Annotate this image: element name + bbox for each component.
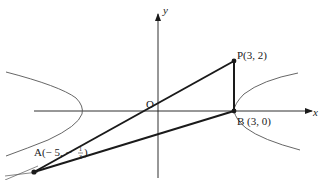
origin-label: O [146, 98, 154, 110]
point-B-label: B (3, 0) [237, 115, 271, 128]
segment-AB [34, 111, 234, 172]
point-P [232, 59, 237, 64]
point-A-label-close: ) [84, 146, 88, 159]
x-axis-label: x [312, 106, 318, 118]
point-A-frac-num: 1 [79, 146, 82, 152]
hyperbola-diagram: y x O P(3, 2) B (3, 0) A(− 5, − 1 3 ) [0, 0, 322, 180]
point-B [232, 109, 237, 114]
point-A-label-main: A(− 5, − [34, 146, 72, 159]
point-A-label: A(− 5, − [34, 146, 72, 159]
point-P-label: P(3, 2) [237, 49, 267, 62]
point-A [31, 169, 36, 174]
y-axis-label: y [162, 4, 168, 16]
point-A-frac-den: 3 [79, 154, 82, 160]
hyperbola-right-branch [234, 73, 300, 150]
hyperbola-left-branch [6, 72, 82, 156]
